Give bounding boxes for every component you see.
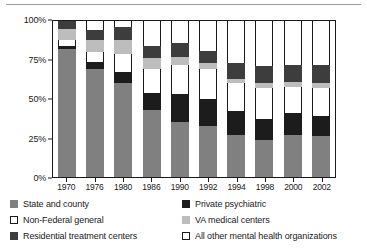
bar-segment[interactable] <box>171 21 189 43</box>
legend-item[interactable]: Residential treatment centers <box>10 231 182 241</box>
bar-column[interactable] <box>227 21 245 177</box>
legend-item[interactable]: All other mental health organizations <box>182 231 360 241</box>
y-axis-tick-label: 50% <box>29 94 46 104</box>
bar-segment[interactable] <box>86 40 104 52</box>
bar-segment[interactable] <box>114 27 132 39</box>
bar-segment[interactable] <box>86 21 104 30</box>
legend-label: Residential treatment centers <box>23 231 137 241</box>
legend-item[interactable]: State and county <box>10 199 182 209</box>
y-axis-tick-label: 75% <box>29 55 46 65</box>
bar-segment[interactable] <box>171 43 189 57</box>
bar-segment[interactable] <box>255 21 273 66</box>
bar-segment[interactable] <box>227 135 245 177</box>
legend-label: Non-Federal general <box>23 215 104 225</box>
x-axis-tick-label: 1992 <box>194 182 222 196</box>
x-axis-tick-label: 1970 <box>52 182 80 196</box>
top-divider <box>6 4 361 5</box>
bar-column[interactable] <box>199 21 217 177</box>
bar-column[interactable] <box>86 21 104 177</box>
bar-segment[interactable] <box>199 69 217 99</box>
bar-segment[interactable] <box>171 94 189 122</box>
bar-segment[interactable] <box>114 72 132 83</box>
bar-column[interactable] <box>171 21 189 177</box>
bar-segment[interactable] <box>86 52 104 61</box>
bar-column[interactable] <box>58 21 76 177</box>
chart-legend: State and countyPrivate psychiatricNon-F… <box>10 196 360 246</box>
chart-page: 0%25%50%75%100% 197019761980198619901992… <box>0 0 367 252</box>
legend-swatch-icon <box>10 200 18 208</box>
bar-segment[interactable] <box>199 99 217 126</box>
bar-segment[interactable] <box>171 65 189 95</box>
bar-segment[interactable] <box>227 21 245 63</box>
legend-swatch-icon <box>10 216 18 224</box>
bar-segment[interactable] <box>255 119 273 139</box>
y-axis-tick-label: 25% <box>29 134 46 144</box>
bar-segment[interactable] <box>143 110 161 177</box>
bar-column[interactable] <box>284 21 302 177</box>
bar-segment[interactable] <box>312 88 330 116</box>
bar-segment[interactable] <box>171 57 189 65</box>
x-axis-tick-label: 1990 <box>166 182 194 196</box>
legend-label: Private psychiatric <box>195 199 266 209</box>
bar-segment[interactable] <box>284 135 302 177</box>
bar-segment[interactable] <box>199 21 217 51</box>
bar-segment[interactable] <box>227 63 245 79</box>
bar-segment[interactable] <box>143 69 161 92</box>
bar-segment[interactable] <box>58 29 76 40</box>
x-axis-tick-label: 1998 <box>251 182 279 196</box>
bar-column[interactable] <box>114 21 132 177</box>
legend-swatch-icon <box>182 232 190 240</box>
bar-segment[interactable] <box>199 126 217 177</box>
bar-segment[interactable] <box>171 122 189 177</box>
legend-label: All other mental health organizations <box>195 231 337 241</box>
legend-label: State and county <box>23 199 89 209</box>
bar-segment[interactable] <box>284 65 302 82</box>
bar-segment[interactable] <box>255 88 273 119</box>
bar-segment[interactable] <box>143 93 161 110</box>
bar-segment[interactable] <box>86 62 104 70</box>
bar-segment[interactable] <box>312 21 330 65</box>
bar-segment[interactable] <box>312 116 330 136</box>
y-axis-tick-label: 100% <box>24 15 46 25</box>
bar-column[interactable] <box>312 21 330 177</box>
bar-segment[interactable] <box>114 54 132 73</box>
bar-segment[interactable] <box>312 65 330 84</box>
bar-segment[interactable] <box>312 136 330 177</box>
bar-segment[interactable] <box>227 83 245 111</box>
plot-area <box>52 20 336 178</box>
x-axis-tick-label: 1986 <box>137 182 165 196</box>
bar-segment[interactable] <box>114 40 132 54</box>
legend-label: VA medical centers <box>195 215 270 225</box>
bar-segment[interactable] <box>114 83 132 177</box>
bar-segment[interactable] <box>284 87 302 114</box>
bar-segment[interactable] <box>58 49 76 177</box>
bar-segment[interactable] <box>199 51 217 63</box>
stacked-bar-chart: 0%25%50%75%100% 197019761980198619901992… <box>0 10 367 190</box>
legend-item[interactable]: VA medical centers <box>182 215 360 225</box>
legend-item[interactable]: Non-Federal general <box>10 215 182 225</box>
bar-segment[interactable] <box>284 113 302 135</box>
x-axis-tick-label: 2000 <box>279 182 307 196</box>
bar-column[interactable] <box>143 21 161 177</box>
bar-segment[interactable] <box>86 30 104 39</box>
bar-segment[interactable] <box>255 66 273 83</box>
bar-segment[interactable] <box>86 69 104 177</box>
x-axis-tick-label: 1994 <box>223 182 251 196</box>
bar-segment[interactable] <box>284 21 302 65</box>
x-axis-labels: 1970197619801986199019921994199820002002 <box>52 182 336 196</box>
bar-segment[interactable] <box>255 140 273 177</box>
bar-segment[interactable] <box>143 58 161 69</box>
bar-segment[interactable] <box>227 111 245 134</box>
legend-swatch-icon <box>182 216 190 224</box>
bar-segment[interactable] <box>143 21 161 46</box>
legend-swatch-icon <box>182 200 190 208</box>
x-axis-tick-label: 1976 <box>81 182 109 196</box>
legend-swatch-icon <box>10 232 18 240</box>
bar-segment[interactable] <box>58 21 76 29</box>
bar-segment[interactable] <box>143 46 161 58</box>
y-axis: 0%25%50%75%100% <box>0 10 52 190</box>
x-axis-tick-label: 2002 <box>308 182 336 196</box>
legend-item[interactable]: Private psychiatric <box>182 199 360 209</box>
bar-column[interactable] <box>255 21 273 177</box>
y-axis-tick-label: 0% <box>33 173 46 183</box>
